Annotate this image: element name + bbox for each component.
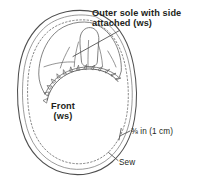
label-front: Front (ws) — [41, 101, 85, 122]
label-front-line2: (ws) — [41, 111, 85, 121]
callout-outer-sole-line1: Outer sole with side — [92, 8, 181, 18]
shoe-diagram-illustration — [0, 0, 199, 194]
label-front-line1: Front — [51, 101, 75, 111]
label-seam-allowance: ⅜ in (1 cm) — [131, 127, 173, 136]
callout-outer-sole: Outer sole with side attached (ws) — [92, 8, 181, 29]
sewing-diagram-figure: Outer sole with side attached (ws) Front… — [0, 0, 199, 194]
label-sew: Sew — [119, 158, 135, 167]
callout-outer-sole-line2: attached (ws) — [92, 18, 181, 28]
